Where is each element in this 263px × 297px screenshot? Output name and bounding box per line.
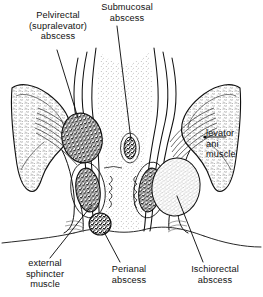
label-submucosal-abscess: Submucosal abscess — [78, 2, 176, 23]
skin-surface-line — [2, 227, 261, 247]
leader-line-perianal — [104, 232, 120, 262]
label-perianal-abscess: Perianal abscess — [88, 264, 170, 285]
perianal-abscess — [89, 213, 111, 235]
label-levator-ani-muscle: levator ani muscle — [206, 128, 262, 160]
label-ischiorectal-abscess: Ischiorectal abscess — [168, 264, 262, 285]
label-external-sphincter-muscle: external sphincter muscle — [2, 258, 88, 290]
leader-line-external — [50, 205, 92, 258]
